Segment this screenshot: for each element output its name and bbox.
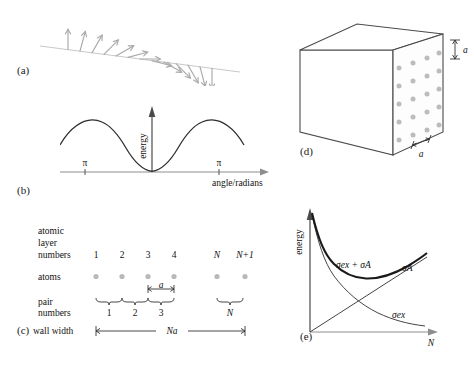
panel-c-wall-width-label: Na (165, 326, 177, 336)
panel-b-y-arrowhead (149, 106, 156, 117)
panel-d-horizontal-spacing-label: a (419, 149, 424, 159)
atom-dot (397, 102, 402, 107)
atom-dot (397, 66, 402, 71)
atom-dot (437, 105, 442, 110)
panel-c-label-atoms: atoms (38, 272, 61, 282)
panel-label-d: (d) (300, 145, 313, 157)
atom-dot (437, 123, 442, 128)
atom-dot (411, 79, 416, 84)
panel-c-layer-number: 3 (146, 250, 151, 260)
atom-dot (411, 133, 416, 138)
panel-c-label-wall-width: wall width (33, 326, 74, 336)
atom-dot (145, 274, 150, 279)
panel-e-label-sigma-ex: σex (392, 310, 406, 320)
panel-b-chart: π π energy angle/radians (60, 98, 275, 188)
panel-b-y-axis-label: energy (138, 133, 148, 159)
panel-c-atom-dots (93, 274, 247, 279)
panel-c-label-layer: layer (38, 238, 58, 248)
panel-c-spacing-label: a (159, 280, 164, 290)
panel-c-layer-number: 4 (172, 250, 177, 260)
panel-c-pair-number: 3 (159, 308, 164, 318)
panel-c-pair-braces (96, 298, 243, 305)
panel-c-label-numbers: numbers (38, 250, 71, 260)
panel-b-tick-label-right: π (217, 158, 222, 168)
cube-right-face (393, 34, 443, 155)
panel-label-a: (a) (17, 64, 29, 76)
atom-dot (425, 92, 430, 97)
panel-e-y-axis-label: energy (294, 229, 304, 255)
panel-e-label-sigma-a: σA (402, 263, 413, 273)
atom-dot (171, 274, 176, 279)
atom-dot (437, 87, 442, 92)
atom-dot (425, 128, 430, 133)
atom-dot (425, 56, 430, 61)
panel-c-label-atomic: atomic (38, 226, 64, 236)
atom-dot (411, 115, 416, 120)
panel-label-b: (b) (17, 184, 30, 196)
panel-e-label-sum: σex + σA (336, 260, 371, 270)
cube-left-face (300, 50, 393, 155)
panel-d-vertical-spacing-marker (450, 40, 460, 59)
atom-dot (119, 274, 124, 279)
panel-c-pair-number: 1 (107, 308, 112, 318)
panel-b-x-axis-label: angle/radians (212, 178, 263, 188)
atom-dot (397, 84, 402, 89)
atom-dot (437, 69, 442, 74)
panel-e-x-arrowhead (428, 329, 438, 336)
panel-d-vertical-spacing-label: a (463, 45, 468, 55)
panel-a-spin-arrows (65, 29, 214, 86)
panel-c-pair-number: N (226, 308, 234, 318)
panel-a-graphic (40, 14, 240, 86)
atom-dot (242, 274, 247, 279)
panel-c-label-pair: pair (38, 297, 54, 307)
panel-c-layer-number: 2 (120, 250, 125, 260)
atom-dot (214, 274, 219, 279)
panel-e-chart: σex + σA σA σex energy N (288, 196, 468, 354)
atom-dot (397, 138, 402, 143)
panel-d-graphic: a a (295, 12, 470, 172)
atom-dot (411, 97, 416, 102)
panel-c-layer-number: 1 (94, 250, 99, 260)
panel-label-c: (c) (17, 324, 29, 336)
panel-e-x-axis-label: N (427, 338, 435, 348)
panel-label-e: (e) (300, 330, 312, 342)
atom-dot (425, 110, 430, 115)
panel-c-layer-number: N (213, 250, 221, 260)
panel-c-layer-number: N+1 (235, 250, 254, 260)
figure-canvas: (a) π π energy angle/radians (b) atomic … (0, 0, 474, 369)
panel-c-graphic: atomic layer numbers 1 2 3 4 N N+1 atoms… (30, 224, 280, 336)
panel-b-x-arrowhead (260, 169, 269, 176)
atom-dot (437, 51, 442, 56)
panel-c-pair-number: 2 (133, 308, 138, 318)
atom-dot (93, 274, 98, 279)
panel-c-label-pair-numbers: numbers (38, 308, 71, 318)
atom-dot (397, 120, 402, 125)
atom-dot (411, 61, 416, 66)
atom-dot (425, 74, 430, 79)
panel-b-tick-label-left: π (83, 158, 88, 168)
